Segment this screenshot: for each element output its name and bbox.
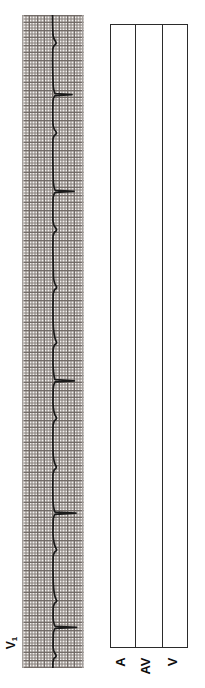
ladder-tier-labels: A AV V xyxy=(110,648,188,688)
ladder-tier-label-a: A xyxy=(113,647,129,677)
ecg-lead-label: V1 xyxy=(2,626,20,660)
ecg-ladder-figure: V1 A AV V xyxy=(0,0,205,688)
ladder-frame xyxy=(110,24,188,648)
ladder-divider-av-v xyxy=(162,24,163,648)
ecg-lead-subscript: 1 xyxy=(10,637,19,641)
ladder-tier-label-av: AV xyxy=(138,651,154,681)
ladder-tier-label-v: V xyxy=(165,647,181,677)
ecg-waveform-trace xyxy=(22,15,84,668)
ladder-diagram xyxy=(110,24,188,648)
ecg-lead-letter: V xyxy=(4,641,18,649)
ladder-divider-a-av xyxy=(135,24,136,648)
ecg-strip xyxy=(22,15,84,668)
